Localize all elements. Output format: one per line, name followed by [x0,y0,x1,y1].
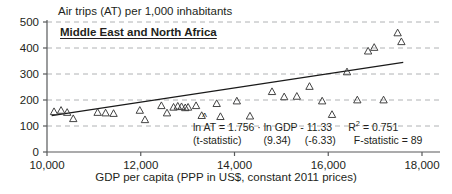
y-axis-tick-label: 300 [5,68,39,80]
data-point [102,109,109,116]
x-axis-tick-label: 14,000 [200,159,270,171]
data-point [233,97,240,104]
data-point [371,44,378,51]
data-point [394,29,401,36]
y-axis-tick-label: 400 [5,42,39,54]
data-point [398,38,405,45]
x-axis-tick-label: 16,000 [293,159,363,171]
region-label: Middle East and North Africa [60,27,217,39]
chart-container: Air trips (AT) per 1,000 inhabitants Mid… [0,0,452,194]
x-axis-tick-label: 12,000 [106,159,176,171]
x-axis-tick-label: 10,000 [12,159,82,171]
data-point [328,111,335,118]
data-point [306,83,313,90]
regression-equation-line: ln AT = 1.756 · ln GDP - 11.33R2 = 0.751 [193,119,398,133]
data-point [354,96,361,103]
t-statistic-slope: (9.34) [263,134,290,146]
y-axis-tick-label: 500 [5,16,39,28]
data-point [281,93,288,100]
t-statistic-label: (t-statistic) [193,134,241,146]
data-point [318,97,325,104]
data-point [293,93,300,100]
y-axis-tick-label: 200 [5,94,39,106]
data-point [141,116,148,123]
equation-lhs: ln AT [193,121,216,133]
equation-body: = 1.756 · ln GDP - 11.33 [216,121,332,133]
data-point [246,112,253,119]
data-point [50,108,57,115]
r-squared-value: = 0.751 [360,121,398,133]
y-axis-tick-label: 0 [5,146,39,158]
data-point [213,100,220,107]
data-point [110,110,117,117]
regression-statistics-line: (t-statistic)(9.34)(-6.33)F-statistic = … [193,134,422,146]
r-squared-label: R [348,121,356,133]
page-title: Air trips (AT) per 1,000 inhabitants [58,6,232,18]
f-statistic: F-statistic = 89 [354,134,423,146]
data-markers-group [50,29,405,123]
x-axis-tick-label: 18,000 [387,159,452,171]
data-point [70,115,77,122]
x-axis-title: GDP per capita (PPP in US$, constant 201… [0,172,452,184]
data-point [192,102,199,109]
trendline-group [52,62,404,115]
data-point [380,96,387,103]
data-point [158,102,165,109]
data-point [57,107,64,114]
data-point [136,107,143,114]
y-axis-tick-label: 100 [5,120,39,132]
t-statistic-intercept: (-6.33) [305,134,336,146]
data-point [268,88,275,95]
